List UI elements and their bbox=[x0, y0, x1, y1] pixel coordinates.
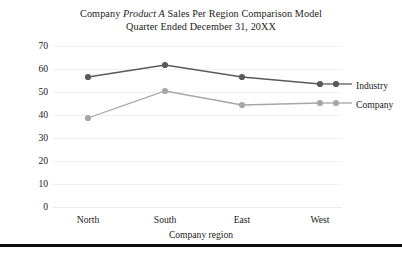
legend-marker-industry bbox=[333, 81, 339, 87]
point-industry-east bbox=[239, 74, 245, 80]
point-company-east bbox=[239, 102, 245, 108]
point-company-south bbox=[162, 88, 168, 94]
legend-label-industry: Industry bbox=[356, 80, 388, 91]
series-industry-line bbox=[88, 65, 320, 84]
legend-label-company: Company bbox=[356, 99, 393, 110]
bottom-divider bbox=[0, 244, 402, 247]
x-tick-west: West bbox=[285, 214, 355, 225]
point-company-north bbox=[85, 115, 91, 121]
legend-marker-company bbox=[333, 100, 339, 106]
x-tick-north: North bbox=[53, 214, 123, 225]
point-industry-north bbox=[85, 74, 91, 80]
x-tick-east: East bbox=[207, 214, 277, 225]
series-industry bbox=[85, 62, 352, 87]
chart-figure: Company Product A Sales Per Region Compa… bbox=[0, 0, 402, 253]
series-company-line bbox=[88, 91, 320, 118]
series-company bbox=[85, 88, 352, 121]
x-axis-title: Company region bbox=[0, 229, 402, 240]
point-industry-south bbox=[162, 62, 168, 68]
x-tick-south: South bbox=[130, 214, 200, 225]
